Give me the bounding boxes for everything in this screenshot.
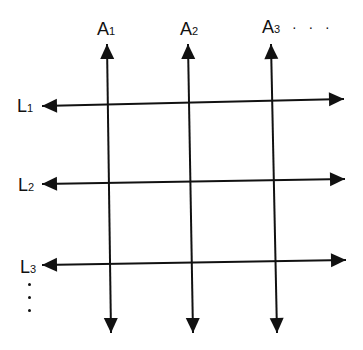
vertical-continuation-dots <box>28 283 32 322</box>
label-a1: A1 <box>97 20 115 38</box>
label-l1: L1 <box>17 97 33 115</box>
label-l3: L3 <box>20 258 36 276</box>
horizontal-arrow-l2 <box>42 172 345 191</box>
vertical-arrow-a3 <box>264 44 283 333</box>
arrowhead-icon <box>186 318 200 333</box>
label-a2: A2 <box>180 20 198 38</box>
label-l2: L2 <box>18 176 34 194</box>
dot <box>28 296 31 299</box>
arrowhead-icon <box>104 318 118 333</box>
dot <box>28 283 31 286</box>
arrowhead-icon <box>42 258 57 272</box>
arrowhead-icon <box>181 44 195 59</box>
horizontal-arrow-l3 <box>42 253 346 272</box>
arrowhead-icon <box>42 99 57 113</box>
vertical-arrow-a2 <box>181 44 199 333</box>
dot <box>28 309 31 312</box>
arrowhead-icon <box>329 92 344 106</box>
label-a3: A3 <box>262 18 280 36</box>
arrowhead-icon <box>42 177 57 191</box>
arrowhead-icon <box>264 44 278 59</box>
arrowhead-icon <box>331 253 346 267</box>
grid-diagram <box>0 0 363 350</box>
arrowhead-icon <box>330 172 345 186</box>
arrowhead-icon <box>100 44 114 59</box>
arrowhead-icon <box>270 318 284 333</box>
horizontal-arrow-l1 <box>42 92 344 112</box>
vertical-arrow-a1 <box>100 44 118 333</box>
horizontal-continuation-dots: · · · <box>292 20 334 34</box>
